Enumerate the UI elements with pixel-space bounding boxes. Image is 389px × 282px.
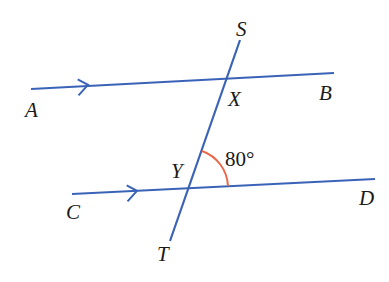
parallel-arrow-cd-icon [127, 185, 138, 202]
label-c: C [66, 200, 81, 224]
label-x: X [227, 87, 242, 111]
label-d: D [358, 186, 374, 210]
label-t: T [157, 242, 170, 266]
line-cd [72, 179, 375, 194]
angle-label: 80° [225, 147, 254, 171]
parallel-lines-diagram: S A X B Y 80° C D T [0, 0, 389, 282]
line-ab [31, 73, 334, 89]
diagram-canvas: S A X B Y 80° C D T [0, 0, 389, 282]
label-a: A [23, 98, 38, 122]
transversal-st [170, 40, 240, 241]
label-s: S [236, 17, 247, 41]
label-b: B [319, 81, 332, 105]
label-y: Y [171, 159, 185, 183]
